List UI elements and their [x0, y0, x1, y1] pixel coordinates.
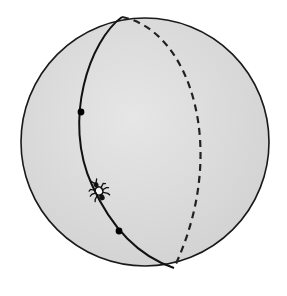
sphere: [21, 18, 269, 266]
point-lower: [116, 228, 123, 235]
diagram-stage: Sphere with a great circle; an ant walki…: [0, 0, 287, 296]
point-upper: [78, 109, 85, 116]
sphere-diagram: [0, 0, 287, 296]
